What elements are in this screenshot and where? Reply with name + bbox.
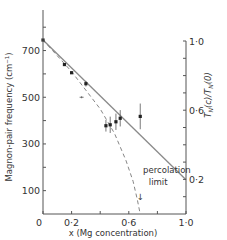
data-point [139, 115, 142, 118]
data-point [119, 117, 122, 120]
x-tick-label: 0·6 [121, 217, 136, 228]
y-tick-label: 700 [22, 45, 40, 56]
x-tick-label: 0 [36, 217, 42, 228]
percolation-arrow-icon: ↓ [137, 192, 144, 202]
data-point [114, 120, 117, 123]
y-axis-label: Magnon-pair frequency (cm⁻¹) [4, 53, 14, 182]
y2-tick-label: 1·0 [189, 36, 204, 47]
x-axis-label: x (Mg concentration) [69, 228, 158, 238]
data-point [63, 63, 66, 66]
data-point [70, 71, 73, 74]
plot-area [41, 38, 186, 214]
y2-tick-label: 0·6 [189, 105, 204, 116]
annotations: percolationlimit↓ [137, 165, 191, 202]
y2-tick-label: 0·2 [189, 174, 204, 185]
x-tick-label: 0·2 [64, 217, 79, 228]
y-tick-label: 500 [22, 92, 40, 103]
percolation-label: limit [149, 177, 168, 187]
y-tick-label: 300 [22, 138, 40, 149]
right-axis-label: TN(c)/TN(0) [203, 72, 214, 118]
x-tick-label: 1·0 [178, 217, 193, 228]
percolation-label: percolation [143, 165, 191, 175]
axes: 70050030010000·20·61·01·00·60·2 [22, 10, 204, 228]
data-point [109, 123, 112, 126]
data-point [104, 124, 107, 127]
dashed-percolation-curve [43, 40, 140, 214]
svg-text:TN(c)/TN(0): TN(c)/TN(0) [203, 72, 214, 118]
data-point [84, 82, 87, 85]
y-tick-label: 100 [22, 185, 40, 196]
solid-fit-line [43, 40, 186, 180]
chart: 70050030010000·20·61·01·00·60·2 Magnon-p… [0, 0, 227, 240]
